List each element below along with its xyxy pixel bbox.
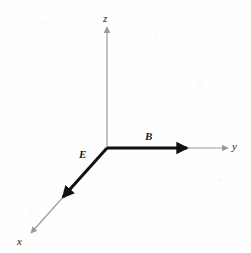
vector-diagram-figure: z y x B E <box>0 0 251 253</box>
axis-label-z: z <box>103 13 107 24</box>
vector-label-b: B <box>145 131 152 142</box>
vector-label-e: E <box>79 149 86 160</box>
vector-diagram-canvas <box>0 0 251 253</box>
axis-label-x: x <box>17 236 22 247</box>
axis-label-y: y <box>232 141 237 152</box>
